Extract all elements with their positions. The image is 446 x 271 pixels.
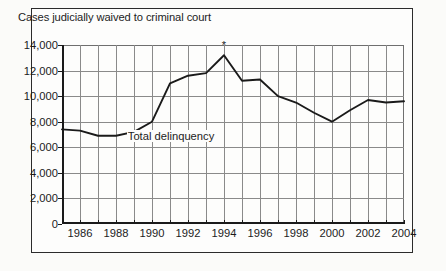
x-tick-label: 1990 bbox=[140, 227, 165, 239]
x-tick-mark bbox=[368, 220, 369, 224]
x-tick-mark bbox=[98, 220, 99, 224]
data-series-line bbox=[62, 45, 404, 224]
y-tick-mark bbox=[58, 71, 62, 72]
x-tick-mark bbox=[116, 220, 117, 224]
x-tick-label: 1996 bbox=[248, 227, 273, 239]
x-tick-mark bbox=[350, 220, 351, 224]
x-tick-mark bbox=[224, 220, 225, 224]
x-axis-line bbox=[62, 222, 404, 224]
x-tick-mark bbox=[152, 220, 153, 224]
plot-wrapper: * Total delinquency bbox=[31, 37, 404, 224]
x-tick-mark bbox=[80, 220, 81, 224]
series-total-delinquency bbox=[62, 55, 404, 136]
x-tick-mark bbox=[170, 220, 171, 224]
x-tick-mark bbox=[296, 220, 297, 224]
x-tick-mark bbox=[404, 220, 405, 224]
x-tick-mark bbox=[278, 220, 279, 224]
x-tick-mark bbox=[386, 220, 387, 224]
y-axis-line bbox=[62, 45, 64, 224]
y-tick-mark bbox=[58, 96, 62, 97]
x-tick-label: 1994 bbox=[212, 227, 237, 239]
x-tick-mark bbox=[260, 220, 261, 224]
y-tick-mark bbox=[58, 122, 62, 123]
figure-canvas: Cases judicially waived to criminal cour… bbox=[0, 0, 446, 271]
x-tick-label: 1988 bbox=[104, 227, 129, 239]
series-inline-label: Total delinquency bbox=[127, 130, 215, 142]
chart-title: Cases judicially waived to criminal cour… bbox=[18, 11, 211, 23]
peak-asterisk-annotation: * bbox=[222, 42, 226, 48]
y-tick-mark bbox=[58, 45, 62, 46]
x-tick-label: 1986 bbox=[68, 227, 93, 239]
y-tick-mark bbox=[58, 173, 62, 174]
x-tick-label: 1992 bbox=[176, 227, 201, 239]
x-tick-label: 1998 bbox=[284, 227, 309, 239]
x-tick-mark bbox=[206, 220, 207, 224]
x-tick-mark bbox=[332, 220, 333, 224]
x-tick-mark bbox=[314, 220, 315, 224]
plot-area: * Total delinquency bbox=[62, 45, 404, 224]
y-tick-mark bbox=[58, 198, 62, 199]
x-tick-mark bbox=[134, 220, 135, 224]
y-tick-mark bbox=[58, 224, 62, 225]
y-tick-mark bbox=[58, 147, 62, 148]
x-tick-label: 2004 bbox=[392, 227, 417, 239]
x-axis-tick-labels: 1986198819901992199419961998200020022004 bbox=[0, 227, 446, 243]
x-tick-label: 2002 bbox=[356, 227, 381, 239]
x-tick-mark bbox=[188, 220, 189, 224]
x-tick-mark bbox=[242, 220, 243, 224]
x-tick-label: 2000 bbox=[320, 227, 345, 239]
